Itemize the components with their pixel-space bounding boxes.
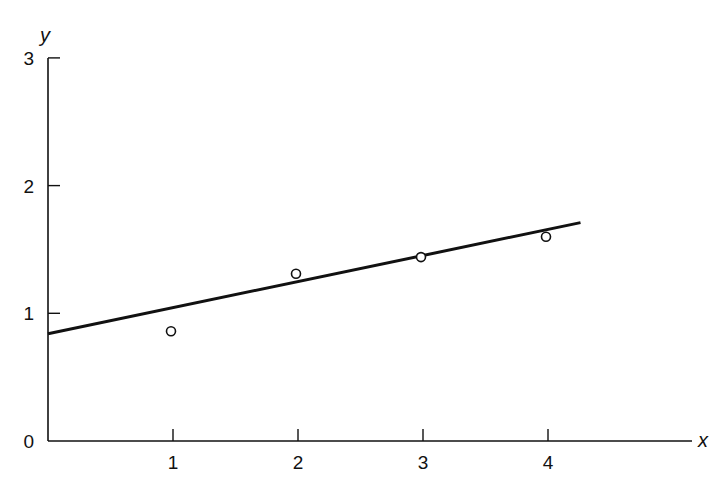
fitted-line [48, 223, 581, 334]
ticks: 12340123 [23, 48, 553, 473]
series [48, 223, 581, 336]
x-tick-label: 4 [543, 452, 554, 473]
y-axis-label: y [38, 24, 51, 46]
data-point [542, 232, 551, 241]
y-tick-label: 1 [23, 303, 34, 324]
x-tick-label: 1 [168, 452, 179, 473]
x-axis-label: x [697, 429, 709, 451]
x-tick-label: 3 [418, 452, 429, 473]
y-tick-label: 2 [23, 176, 34, 197]
chart: 12340123 y x [0, 0, 720, 486]
data-point [292, 269, 301, 278]
y-tick-label: 0 [23, 431, 34, 452]
data-point [417, 253, 426, 262]
x-tick-label: 2 [293, 452, 304, 473]
data-point [167, 327, 176, 336]
y-tick-label: 3 [23, 48, 34, 69]
axes [48, 58, 692, 441]
